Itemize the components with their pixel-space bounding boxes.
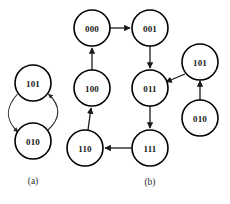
state-diagram: 101 010 (a)	[0, 0, 230, 204]
node-b-111[interactable]: 111	[132, 130, 168, 166]
panel-a: 101 010 (a)	[8, 65, 58, 187]
node-b-010[interactable]: 010	[182, 100, 218, 136]
node-b-000-label: 000	[85, 24, 99, 34]
node-b-000[interactable]: 000	[74, 10, 110, 46]
node-a-101-label: 101	[26, 79, 40, 89]
edge-a-010-to-101	[48, 94, 58, 130]
edge-b-110-to-100	[88, 108, 91, 130]
panel-b: 000 001 100 011 101 010	[67, 10, 218, 188]
node-a-010[interactable]: 010	[15, 123, 51, 159]
panel-a-caption: (a)	[28, 176, 39, 187]
node-a-010-label: 010	[26, 137, 40, 147]
node-a-101[interactable]: 101	[15, 65, 51, 101]
node-b-001[interactable]: 001	[132, 10, 168, 46]
node-b-101[interactable]: 101	[182, 44, 218, 80]
node-b-011-label: 011	[143, 84, 157, 94]
figure-canvas: 101 010 (a)	[0, 0, 230, 204]
node-b-110[interactable]: 110	[67, 130, 103, 166]
node-b-011[interactable]: 011	[132, 70, 168, 106]
edge-a-101-to-010	[8, 94, 18, 132]
node-b-010-label: 010	[193, 114, 207, 124]
node-b-100[interactable]: 100	[74, 70, 110, 106]
node-b-101-label: 101	[193, 58, 207, 68]
node-b-100-label: 100	[85, 84, 99, 94]
panel-b-caption: (b)	[144, 177, 155, 188]
node-b-110-label: 110	[78, 144, 92, 154]
node-b-111-label: 111	[143, 144, 156, 154]
node-b-001-label: 001	[143, 24, 157, 34]
edge-b-101-to-011	[166, 74, 185, 82]
